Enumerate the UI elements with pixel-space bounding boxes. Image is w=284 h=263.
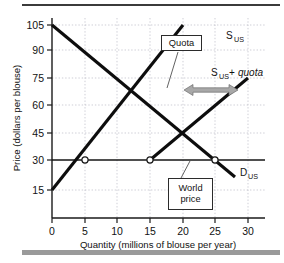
y-tick-label: 30 [32, 154, 44, 166]
x-axis-title: Quantity (millions of blouse per year) [80, 239, 236, 250]
x-axis-tick-labels: 0 5 10 15 20 25 30 [49, 225, 254, 237]
supply-quota-label-subscript: US [219, 72, 229, 81]
world-price-leader-line [181, 161, 190, 178]
x-tick-label: 20 [177, 225, 189, 237]
chart-axes [52, 18, 265, 218]
supply-quota-label-plus: + [229, 67, 235, 78]
world-price-callout-box: World price [168, 178, 213, 210]
quota-callout-box: Quota [161, 35, 202, 51]
y-tick-label: 105 [26, 19, 44, 31]
supply-us-quota-label: S US + quota [211, 67, 263, 81]
y-axis-tick-marks [47, 25, 52, 190]
supply-us-label-base: S [226, 30, 233, 41]
y-tick-label: 45 [32, 127, 44, 139]
quota-leader-line [167, 52, 178, 88]
y-tick-label: 75 [32, 72, 44, 84]
x-tick-label: 0 [49, 225, 55, 237]
y-tick-label: 60 [32, 99, 44, 111]
quota-span-arrow [184, 85, 238, 96]
y-axis-title: Price (dollars per blouse) [11, 65, 22, 172]
figure-container: 105 90 75 60 45 30 15 0 5 10 15 20 25 30… [0, 0, 284, 263]
x-axis-tick-marks [52, 218, 248, 223]
x-tick-label: 25 [209, 225, 221, 237]
x-tick-label: 5 [82, 225, 88, 237]
world-price-callout-line1: World [169, 183, 212, 194]
y-axis-tick-labels: 105 90 75 60 45 30 15 [26, 19, 44, 196]
marker-quota-kink [147, 157, 153, 163]
marker-quantity-demanded [212, 157, 218, 163]
demand-us-label-base: D [240, 167, 247, 178]
supply-quota-label-italic: quota [238, 67, 263, 78]
supply-quota-label-base: S [211, 67, 218, 78]
x-tick-label: 15 [144, 225, 156, 237]
supply-us-label: S US [226, 30, 244, 44]
x-tick-label: 30 [242, 225, 254, 237]
world-price-callout-line2: price [169, 194, 212, 205]
quota-callout-text: Quota [169, 38, 194, 48]
y-tick-label: 15 [32, 184, 44, 196]
y-tick-label: 90 [32, 44, 44, 56]
x-tick-label: 10 [111, 225, 123, 237]
supply-us-label-subscript: US [234, 35, 244, 44]
supply-demand-chart: 105 90 75 60 45 30 15 0 5 10 15 20 25 30… [0, 0, 284, 263]
demand-us-label: D US [240, 167, 258, 181]
marker-quantity-supplied [82, 157, 88, 163]
demand-us-label-subscript: US [248, 172, 258, 181]
